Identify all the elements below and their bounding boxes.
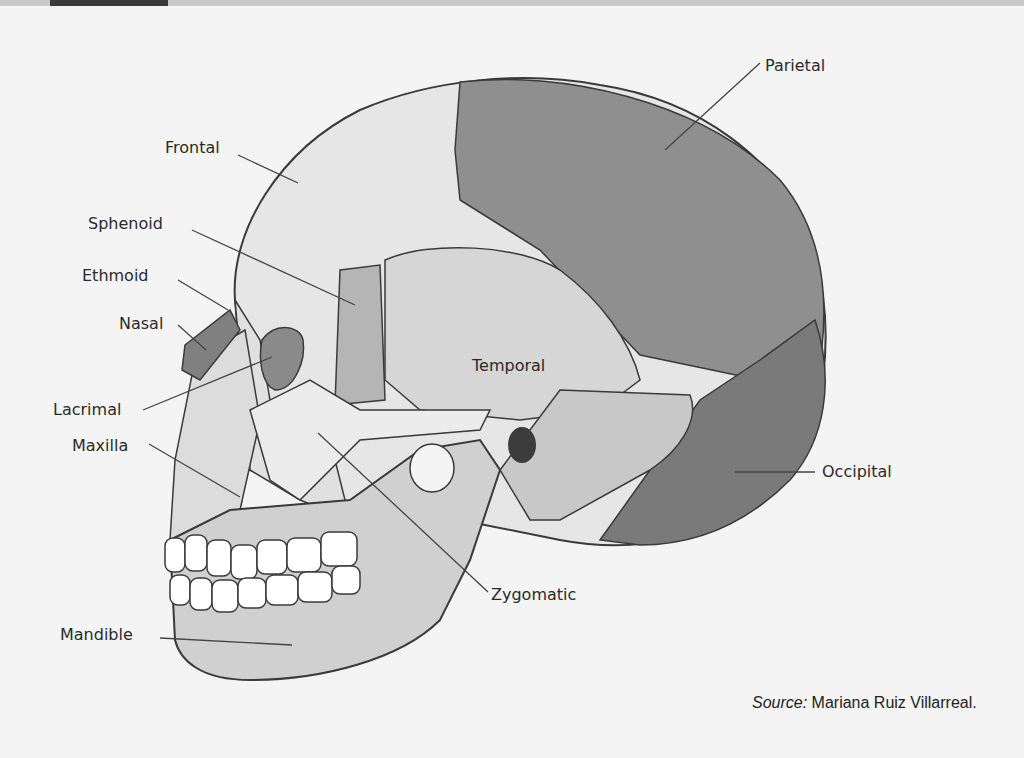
source-prefix: Source: (752, 694, 807, 711)
source-credit: Source: Mariana Ruiz Villarreal. (752, 694, 977, 712)
label-lacrimal: Lacrimal (53, 400, 121, 419)
source-name: Mariana Ruiz Villarreal. (807, 694, 977, 711)
label-parietal: Parietal (765, 56, 825, 75)
label-zygomatic: Zygomatic (491, 585, 576, 604)
skull-illustration (0, 0, 1024, 758)
sphenoid-bone (335, 265, 385, 405)
label-nasal: Nasal (119, 314, 163, 333)
label-mandible: Mandible (60, 625, 133, 644)
label-maxilla: Maxilla (72, 436, 128, 455)
label-ethmoid: Ethmoid (82, 266, 149, 285)
label-temporal: Temporal (472, 356, 545, 375)
label-frontal: Frontal (165, 138, 220, 157)
label-occipital: Occipital (822, 462, 892, 481)
label-sphenoid: Sphenoid (88, 214, 163, 233)
